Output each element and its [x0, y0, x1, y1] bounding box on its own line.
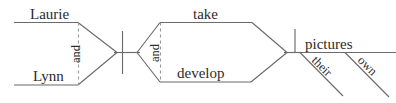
verb-word-take: take: [193, 6, 218, 22]
subject-conjunction-label: and: [69, 44, 83, 63]
subject-word-laurie: Laurie: [30, 6, 69, 22]
subject-upper-arm: [78, 23, 117, 53]
sentence-diagram: Laurie Lynn and and take develop: [0, 0, 396, 103]
verb-lower-right-arm: [251, 53, 287, 83]
subject-lower-arm: [78, 53, 117, 86]
subject-word-lynn: Lynn: [33, 68, 64, 84]
sentence-diagram-canvas: Laurie Lynn and and take develop: [0, 0, 396, 103]
verb-conjunction-label: and: [148, 43, 162, 62]
modifier-label-own: own: [355, 53, 381, 79]
verb-upper-right-arm: [252, 23, 287, 53]
verb-word-develop: develop: [177, 65, 224, 81]
modifier-label-their: their: [309, 53, 336, 80]
object-word-pictures: pictures: [305, 36, 353, 52]
